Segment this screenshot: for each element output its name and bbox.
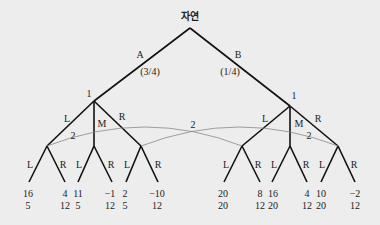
- nature-move-a: A: [136, 50, 143, 60]
- payoff-leaf: 412: [302, 188, 312, 212]
- nature-prob-b: (1/4): [220, 67, 239, 77]
- p1-move-m-left: M: [98, 119, 107, 129]
- payoff-leaf: 412: [60, 188, 70, 212]
- payoff-leaf: 165: [23, 188, 33, 212]
- payoff-leaf: 812: [255, 188, 265, 212]
- p2-move-r: R: [255, 160, 262, 170]
- p2-move-l: L: [76, 160, 82, 170]
- payoff-leaf: 115: [73, 188, 83, 212]
- info-set-label-right: 2: [307, 131, 312, 141]
- p2-move-l: L: [271, 160, 277, 170]
- p2-move-r: R: [351, 160, 358, 170]
- nature-prob-a: (3/4): [140, 67, 159, 77]
- player1-node-left: 1: [87, 89, 92, 99]
- payoff-leaf: −212: [350, 188, 361, 212]
- player1-node-right: 1: [292, 91, 297, 101]
- p2-move-r: R: [60, 160, 67, 170]
- p1-move-l-right: L: [262, 114, 268, 124]
- p1-move-l-left: L: [64, 114, 70, 124]
- info-set-label-center: 2: [191, 120, 196, 130]
- p2-move-l: L: [124, 160, 130, 170]
- nature-node-label: 자연: [181, 12, 199, 22]
- p2-move-l: L: [319, 160, 325, 170]
- nature-move-b: B: [235, 50, 242, 60]
- p2-move-r: R: [155, 160, 162, 170]
- payoff-leaf: −112: [105, 188, 116, 212]
- p1-move-m-right: M: [295, 119, 304, 129]
- payoff-leaf: 25: [123, 188, 128, 212]
- payoff-leaf: 1620: [268, 188, 278, 212]
- payoff-leaf: 1020: [316, 188, 326, 212]
- p2-move-r: R: [303, 160, 310, 170]
- payoff-leaf: 2020: [218, 188, 228, 212]
- info-set-label-left: 2: [71, 131, 76, 141]
- payoff-leaf: −1012: [149, 188, 165, 212]
- p2-move-l: L: [223, 160, 229, 170]
- p2-move-r: R: [108, 160, 115, 170]
- p1-move-r-left: R: [119, 112, 126, 122]
- p1-move-r-right: R: [315, 114, 322, 124]
- p2-move-l: L: [27, 160, 33, 170]
